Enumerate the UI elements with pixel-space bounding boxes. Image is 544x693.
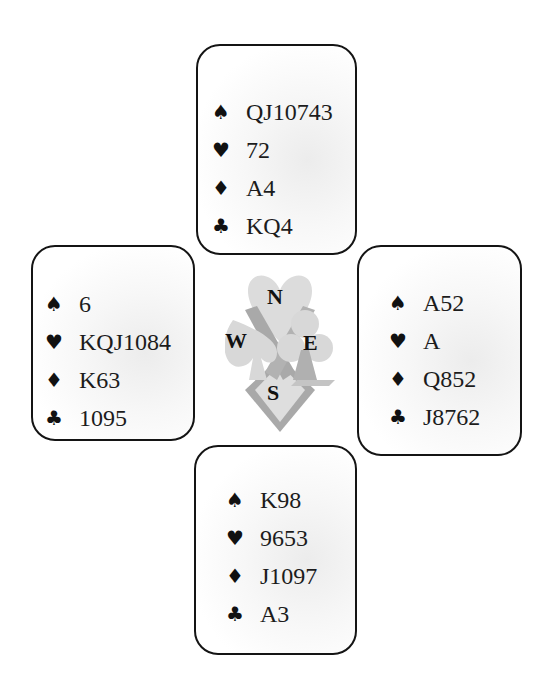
east-spades-row: ♠ A52: [389, 284, 480, 322]
hand-east: ♠ A52 ♥ A ♦ Q852 ♣ J8762: [357, 245, 522, 456]
west-spades: 6: [79, 291, 91, 318]
south-clubs: A3: [260, 601, 289, 628]
diamond-icon: ♦: [45, 368, 79, 392]
north-hearts-row: ♥ 72: [212, 131, 333, 169]
heart-icon: ♥: [226, 526, 260, 550]
spade-icon: ♠: [389, 291, 423, 315]
spade-icon: ♠: [212, 100, 246, 124]
hand-south: ♠ K98 ♥ 9653 ♦ J1097 ♣ A3: [194, 445, 357, 655]
north-spades: QJ10743: [246, 99, 333, 126]
east-hearts-row: ♥ A: [389, 322, 480, 360]
east-spades: A52: [423, 290, 464, 317]
hand-west: ♠ 6 ♥ KQJ1084 ♦ K63 ♣ 1095: [31, 245, 195, 441]
east-hearts: A: [423, 328, 440, 355]
east-clubs: J8762: [423, 404, 480, 431]
west-hearts: KQJ1084: [79, 329, 171, 356]
south-spades-row: ♠ K98: [226, 481, 317, 519]
south-hearts: 9653: [260, 525, 308, 552]
compass-south: S: [267, 380, 279, 406]
compass-emblem: N W E S: [225, 262, 335, 434]
heart-icon: ♥: [389, 329, 423, 353]
north-diamonds: A4: [246, 175, 275, 202]
south-hearts-row: ♥ 9653: [226, 519, 317, 557]
east-diamonds-row: ♦ Q852: [389, 360, 480, 398]
diamond-icon: ♦: [389, 367, 423, 391]
north-clubs-row: ♣ KQ4: [212, 207, 333, 245]
north-hearts: 72: [246, 137, 270, 164]
north-spades-row: ♠ QJ10743: [212, 93, 333, 131]
west-hearts-row: ♥ KQJ1084: [45, 323, 171, 361]
diamond-icon: ♦: [212, 176, 246, 200]
club-icon: ♣: [212, 214, 246, 238]
south-clubs-row: ♣ A3: [226, 595, 317, 633]
west-clubs: 1095: [79, 405, 127, 432]
north-diamonds-row: ♦ A4: [212, 169, 333, 207]
diamond-icon: ♦: [226, 564, 260, 588]
west-diamonds: K63: [79, 367, 120, 394]
east-diamonds: Q852: [423, 366, 476, 393]
north-clubs: KQ4: [246, 213, 293, 240]
compass-west: W: [225, 328, 247, 354]
club-icon: ♣: [45, 406, 79, 430]
west-spades-row: ♠ 6: [45, 285, 171, 323]
compass-east: E: [303, 330, 318, 356]
club-icon: ♣: [389, 405, 423, 429]
west-clubs-row: ♣ 1095: [45, 399, 171, 437]
spade-icon: ♠: [45, 292, 79, 316]
spade-icon: ♠: [226, 488, 260, 512]
heart-icon: ♥: [45, 330, 79, 354]
hand-north: ♠ QJ10743 ♥ 72 ♦ A4 ♣ KQ4: [196, 44, 357, 255]
south-diamonds-row: ♦ J1097: [226, 557, 317, 595]
west-diamonds-row: ♦ K63: [45, 361, 171, 399]
heart-icon: ♥: [212, 138, 246, 162]
compass-north: N: [267, 284, 283, 310]
east-clubs-row: ♣ J8762: [389, 398, 480, 436]
club-icon: ♣: [226, 602, 260, 626]
south-spades: K98: [260, 487, 301, 514]
south-diamonds: J1097: [260, 563, 317, 590]
